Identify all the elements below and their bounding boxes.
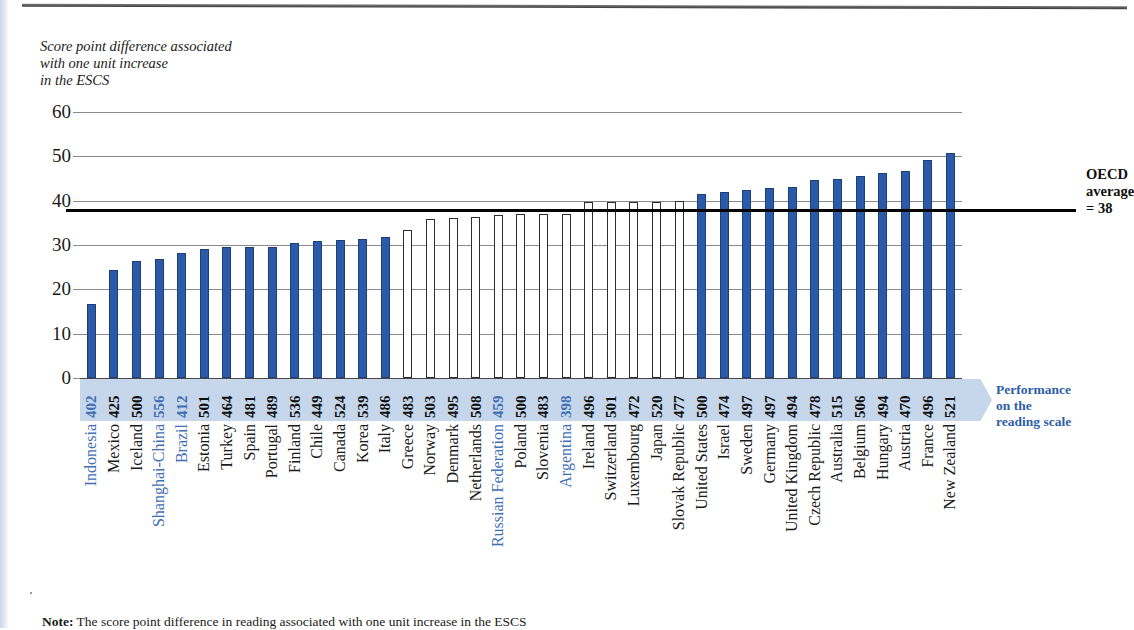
bar[interactable] <box>494 215 503 378</box>
bar[interactable] <box>336 240 345 378</box>
bar[interactable] <box>313 241 322 378</box>
bar-slot[interactable] <box>600 112 623 378</box>
bar-slot[interactable] <box>758 112 781 378</box>
country-label-cell[interactable]: Spain <box>238 424 261 574</box>
bar-slot[interactable] <box>939 112 962 378</box>
country-label-cell[interactable]: Finland <box>283 424 306 574</box>
country-label-cell[interactable]: Mexico <box>103 424 126 574</box>
country-label-cell[interactable]: France <box>917 424 940 574</box>
country-label-cell[interactable]: Greece <box>397 424 420 574</box>
country-label-cell[interactable]: Luxembourg <box>623 424 646 574</box>
bar-slot[interactable] <box>351 112 374 378</box>
country-label-cell[interactable]: Denmark <box>442 424 465 574</box>
country-label-cell[interactable]: Slovenia <box>532 424 555 574</box>
bar-slot[interactable] <box>80 112 103 378</box>
bar[interactable] <box>765 188 774 378</box>
bar-slot[interactable] <box>510 112 533 378</box>
bar-slot[interactable] <box>487 112 510 378</box>
bar[interactable] <box>516 214 525 378</box>
bar[interactable] <box>358 239 367 378</box>
country-label-cell[interactable]: Argentina <box>555 424 578 574</box>
bar[interactable] <box>381 237 390 378</box>
bar[interactable] <box>426 219 435 378</box>
bar[interactable] <box>788 187 797 378</box>
bar[interactable] <box>675 201 684 378</box>
bar[interactable] <box>539 214 548 378</box>
country-label-cell[interactable]: Switzerland <box>600 424 623 574</box>
bar-slot[interactable] <box>397 112 420 378</box>
country-label-cell[interactable]: Korea <box>351 424 374 574</box>
bar[interactable] <box>607 202 616 378</box>
country-label-cell[interactable]: Czech Republic <box>804 424 827 574</box>
bar-slot[interactable] <box>193 112 216 378</box>
bar[interactable] <box>471 217 480 378</box>
bar[interactable] <box>901 171 910 378</box>
bar-slot[interactable] <box>826 112 849 378</box>
bar[interactable] <box>87 304 96 378</box>
bar-slot[interactable] <box>170 112 193 378</box>
country-label-cell[interactable]: Japan <box>645 424 668 574</box>
bar[interactable] <box>856 176 865 378</box>
country-label-cell[interactable]: Canada <box>329 424 352 574</box>
country-label-cell[interactable]: United Kingdom <box>781 424 804 574</box>
bar[interactable] <box>562 214 571 378</box>
country-label-cell[interactable]: Germany <box>758 424 781 574</box>
bar-slot[interactable] <box>645 112 668 378</box>
bar[interactable] <box>155 259 164 378</box>
country-label-cell[interactable]: Italy <box>374 424 397 574</box>
bar-slot[interactable] <box>103 112 126 378</box>
bar[interactable] <box>742 190 751 378</box>
country-label-cell[interactable]: Ireland <box>577 424 600 574</box>
bar-slot[interactable] <box>871 112 894 378</box>
bar-slot[interactable] <box>623 112 646 378</box>
bar[interactable] <box>268 247 277 378</box>
country-label-cell[interactable]: Norway <box>419 424 442 574</box>
country-label-cell[interactable]: New Zealand <box>939 424 962 574</box>
bar-slot[interactable] <box>374 112 397 378</box>
bar-slot[interactable] <box>464 112 487 378</box>
bar-slot[interactable] <box>283 112 306 378</box>
country-label-cell[interactable]: Portugal <box>261 424 284 574</box>
bar-slot[interactable] <box>668 112 691 378</box>
country-label-cell[interactable]: Sweden <box>736 424 759 574</box>
bar-slot[interactable] <box>781 112 804 378</box>
bar-slot[interactable] <box>917 112 940 378</box>
bar-slot[interactable] <box>419 112 442 378</box>
bar-slot[interactable] <box>894 112 917 378</box>
country-label-cell[interactable]: Slovak Republic <box>668 424 691 574</box>
bar-slot[interactable] <box>577 112 600 378</box>
country-label-cell[interactable]: Estonia <box>193 424 216 574</box>
bar-slot[interactable] <box>532 112 555 378</box>
bar[interactable] <box>878 173 887 378</box>
country-label-cell[interactable]: Turkey <box>216 424 239 574</box>
bar-slot[interactable] <box>555 112 578 378</box>
bar[interactable] <box>290 243 299 378</box>
bar-slot[interactable] <box>736 112 759 378</box>
bar-slot[interactable] <box>329 112 352 378</box>
bar[interactable] <box>923 160 932 378</box>
bar[interactable] <box>720 192 729 378</box>
country-label-cell[interactable]: Australia <box>826 424 849 574</box>
bar[interactable] <box>584 202 593 378</box>
bar[interactable] <box>132 261 141 378</box>
bar[interactable] <box>652 202 661 378</box>
bar-slot[interactable] <box>261 112 284 378</box>
bar-slot[interactable] <box>804 112 827 378</box>
country-label-cell[interactable]: Hungary <box>871 424 894 574</box>
country-label-cell[interactable]: Austria <box>894 424 917 574</box>
bar-slot[interactable] <box>125 112 148 378</box>
bar[interactable] <box>109 270 118 378</box>
bar-slot[interactable] <box>216 112 239 378</box>
country-label-cell[interactable]: Poland <box>510 424 533 574</box>
bar[interactable] <box>697 194 706 378</box>
bar-slot[interactable] <box>306 112 329 378</box>
bar[interactable] <box>449 218 458 378</box>
bar-slot[interactable] <box>148 112 171 378</box>
country-label-cell[interactable]: Israel <box>713 424 736 574</box>
bar[interactable] <box>946 153 955 378</box>
country-label-cell[interactable]: Russian Federation <box>487 424 510 574</box>
bar-slot[interactable] <box>690 112 713 378</box>
bar-slot[interactable] <box>713 112 736 378</box>
bar[interactable] <box>222 247 231 378</box>
country-label-cell[interactable]: Belgium <box>849 424 872 574</box>
